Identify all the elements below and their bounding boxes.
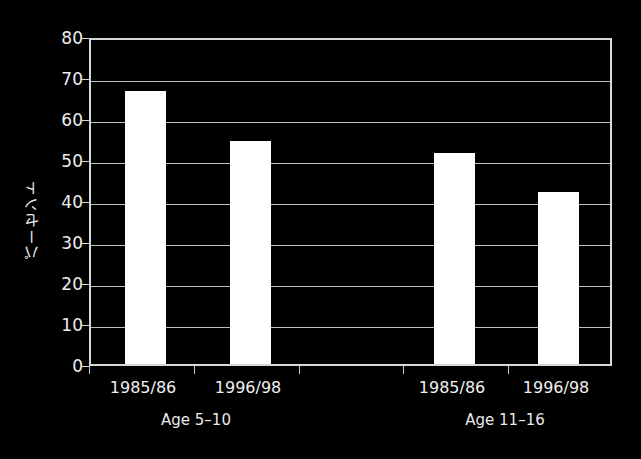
y-tick-label: 20 [29, 276, 83, 293]
bar [538, 192, 579, 364]
x-tick-label: 1996/98 [198, 378, 298, 397]
x-tick-mark [508, 366, 509, 374]
bar [434, 153, 475, 364]
y-tick-mark [82, 325, 89, 326]
y-tick-label: 70 [29, 71, 83, 88]
x-tick-mark [403, 366, 404, 374]
x-tick-label: 1985/86 [402, 378, 502, 397]
y-axis-title: パーセント [20, 168, 44, 260]
gridline-40 [91, 204, 610, 205]
group-label-age-11-16: Age 11–16 [435, 411, 575, 429]
bar [125, 91, 166, 364]
bar [230, 141, 271, 364]
y-tick-mark [82, 120, 89, 121]
y-tick-mark [82, 79, 89, 80]
y-tick-mark [82, 202, 89, 203]
y-tick-mark [82, 366, 89, 367]
gridline-10 [91, 327, 610, 328]
gridline-20 [91, 286, 610, 287]
bar-chart-figure: 80 70 60 50 40 30 20 10 0 パーセント 1985/86 [0, 0, 641, 459]
plot-area [89, 38, 612, 366]
group-label-age-5-10: Age 5–10 [126, 411, 266, 429]
x-tick-mark [194, 366, 195, 374]
y-tick-label: 80 [29, 30, 83, 47]
gridline-30 [91, 245, 610, 246]
y-tick-mark [82, 284, 89, 285]
y-tick-mark [82, 38, 89, 39]
x-tick-label: 1985/86 [93, 378, 193, 397]
y-tick-mark [82, 161, 89, 162]
gridline-60 [91, 122, 610, 123]
x-tick-mark [299, 366, 300, 374]
x-tick-mark [89, 366, 90, 374]
y-tick-mark [82, 243, 89, 244]
y-tick-label: 10 [29, 317, 83, 334]
x-tick-label: 1996/98 [506, 378, 606, 397]
y-tick-label: 0 [29, 358, 83, 375]
y-tick-label: 60 [29, 112, 83, 129]
gridline-50 [91, 163, 610, 164]
gridline-70 [91, 81, 610, 82]
